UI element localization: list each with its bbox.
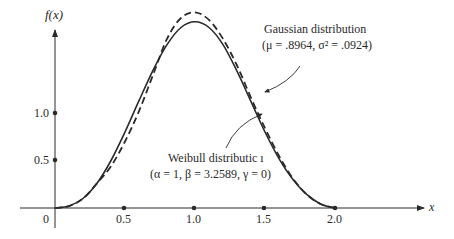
weibull-params: (α = 1, β = 3.2589, γ = 0) (150, 168, 271, 180)
x-tick-0.5: 0.5 (116, 213, 131, 225)
weibull-pointer-arrow (226, 114, 262, 148)
gaussian-params: (μ = .8964, σ² = .0924) (262, 39, 372, 51)
x-tick-0: 0 (43, 213, 49, 225)
weibull-label: Weibull distributic ı (168, 152, 264, 164)
gaussian-label: Gaussian distribution (264, 23, 366, 35)
chart-canvas (0, 0, 454, 239)
y-tick-1.0: 1.0 (34, 107, 49, 119)
x-axis-label: x (429, 201, 434, 213)
x-tick-1.5: 1.5 (256, 213, 271, 225)
gaussian-pointer-arrow (265, 66, 300, 92)
y-tick-0.5: 0.5 (34, 154, 49, 166)
y-axis-label: f(x) (45, 8, 63, 21)
x-tick-2.0: 2.0 (327, 213, 342, 225)
x-tick-1.0: 1.0 (186, 213, 201, 225)
